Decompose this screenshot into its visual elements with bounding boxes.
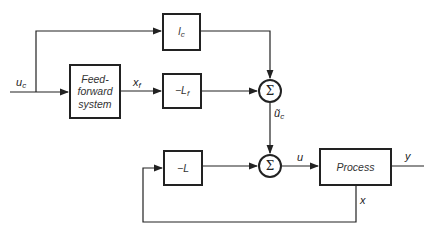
signal-u-label: u — [297, 152, 303, 163]
connections — [0, 0, 432, 236]
summing-junction-1: Σ — [258, 79, 282, 103]
signal-xf-label: xf — [133, 77, 141, 90]
summing-junction-2: Σ — [258, 154, 282, 178]
block-minus-lf: −Lf — [162, 73, 202, 109]
signal-x-label: x — [360, 195, 366, 206]
signal-uc-tilde-label: ũc — [274, 108, 284, 121]
input-uc-label: uc — [16, 77, 26, 90]
block-diagram: uc lc Feed-forwardsystem −Lf −L Process … — [0, 0, 432, 236]
block-process: Process — [319, 148, 392, 186]
block-minus-l: −L — [163, 150, 203, 186]
signal-y-label: y — [405, 151, 411, 162]
block-lc: lc — [162, 13, 201, 51]
block-feedforward-system: Feed-forwardsystem — [69, 64, 121, 119]
